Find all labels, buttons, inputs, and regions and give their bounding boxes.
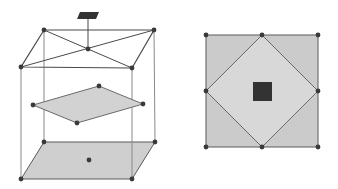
middle-plane: [33, 86, 143, 123]
edge-back-right: [154, 30, 155, 142]
cube-figure: [19, 12, 158, 181]
diagram-canvas: [0, 0, 338, 189]
center-square: [253, 82, 272, 101]
top-view-figure: [204, 33, 321, 150]
top-marker: [77, 12, 99, 19]
